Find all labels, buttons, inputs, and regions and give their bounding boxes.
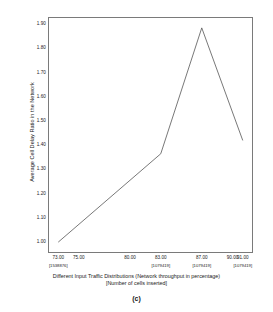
x-tick-sublabel: [1079419]	[233, 263, 252, 268]
figure-caption: (c)	[0, 295, 273, 302]
y-tick-label: 1.70	[37, 70, 46, 75]
y-tick-label: 1.80	[37, 45, 46, 50]
x-axis-title-line2: [Number of cells inserted]	[0, 280, 273, 287]
y-tick-label: 1.10	[37, 215, 46, 220]
x-tick-label: 83.00	[155, 255, 167, 260]
x-tick-label: 73.00	[53, 255, 65, 260]
y-axis-tick-labels: 1.001.101.201.301.401.501.601.701.801.90	[0, 0, 46, 312]
x-tick-sublabel: [1079419]	[151, 263, 170, 268]
y-tick-label: 1.60	[37, 94, 46, 99]
y-tick-label: 1.90	[37, 21, 46, 26]
x-tick-label: 91.00	[237, 255, 249, 260]
x-tick-sublabel: [1079419]	[192, 263, 211, 268]
figure-chart-c: Average Cell Delay Ratio in the Network …	[0, 0, 273, 312]
x-axis-title-line1: Different Input Traffic Distributions (N…	[53, 273, 220, 279]
x-tick-sublabel: [1538876]	[49, 263, 68, 268]
y-tick-label: 1.20	[37, 191, 46, 196]
y-tick-label: 1.40	[37, 142, 46, 147]
y-tick-label: 1.30	[37, 166, 46, 171]
y-tick-label: 1.00	[37, 239, 46, 244]
x-tick-label: 80.00	[124, 255, 136, 260]
x-tick-label: 87.00	[196, 255, 208, 260]
x-axis-title: Different Input Traffic Distributions (N…	[0, 273, 273, 288]
y-tick-label: 1.50	[37, 118, 46, 123]
plot-area	[48, 17, 253, 253]
x-tick-label: 75.00	[73, 255, 85, 260]
